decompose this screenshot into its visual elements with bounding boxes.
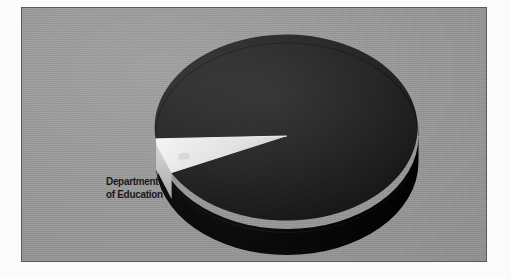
callout-label-line-1: Department [106, 175, 182, 188]
slice-data-label-education: 2% [178, 152, 190, 162]
pie-slice-other [155, 35, 418, 221]
chart-panel: 2% Department of Education [21, 7, 487, 262]
pie-chart: 2% [142, 26, 432, 246]
callout-label-line-2: of Education [106, 188, 182, 201]
pie-svg [142, 26, 432, 246]
figure-root: 2% Department of Education [0, 0, 511, 279]
callout-label-education: Department of Education [106, 175, 182, 200]
